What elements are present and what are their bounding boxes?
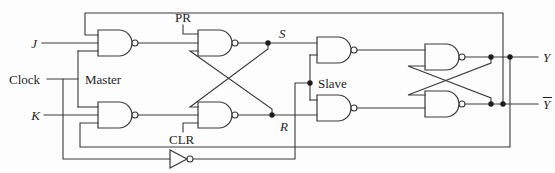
wire-clear [183,123,198,132]
wire-preset [183,25,198,34]
inversion-bubble [351,47,357,53]
label-y-output: Y [543,50,552,65]
label-k: K [30,108,41,123]
junction-dot-y-feedback [507,54,512,59]
jk-master-slave-flipflop-schematic: J Clock K Master Slave PR CLR S R Y Y [0,0,555,173]
nand-gate-slave-r-input [317,95,357,121]
inversion-bubble [232,112,238,118]
nand-gate-output-ybar [425,91,465,117]
junction-dot-clockbar [307,80,312,85]
inversion-bubble [232,40,238,46]
inversion-bubble [187,156,193,162]
label-s: S [279,26,286,41]
wire-ybar-cross-to-g7 [408,66,491,104]
label-r: R [279,119,288,134]
inversion-bubble [132,40,138,46]
wire-r-cross-to-s-gate [190,51,272,115]
circuit-diagram: J Clock K Master Slave PR CLR S R Y Y [0,0,555,173]
label-ybar-output: Y [543,97,552,112]
inversion-bubble [132,112,138,118]
label-ybar-letter: Y [543,97,552,112]
wire-ybar-feedback-top [85,13,503,104]
signal-labels: J Clock K Master Slave PR CLR S R Y Y [9,10,552,147]
nand-gate-master-k [98,102,138,128]
label-clock: Clock [9,72,41,87]
label-j: J [31,36,38,51]
label-preset: PR [175,10,191,25]
label-slave: Slave [318,76,347,91]
label-clear: CLR [169,132,195,147]
nand-gate-output-y [425,44,465,70]
junction-dot-r [269,112,274,117]
wire-y-cross-to-g8 [408,57,491,95]
inversion-bubble [459,54,465,60]
label-master: Master [85,72,122,87]
junction-dots [265,40,512,117]
nand-gate-master-j [98,30,138,56]
junction-dot-ybar-feedback [500,101,505,106]
junction-dot-ybar-cross [488,101,493,106]
clock-inverter [170,150,193,168]
nand-gate-slave-s-input [317,37,357,63]
nand-gate-master-set [198,30,238,56]
junction-dot-s [265,40,270,45]
nand-gate-master-reset [198,102,238,128]
inversion-bubble [351,105,357,111]
junction-dot-y-cross [488,54,493,59]
inversion-bubble [459,101,465,107]
